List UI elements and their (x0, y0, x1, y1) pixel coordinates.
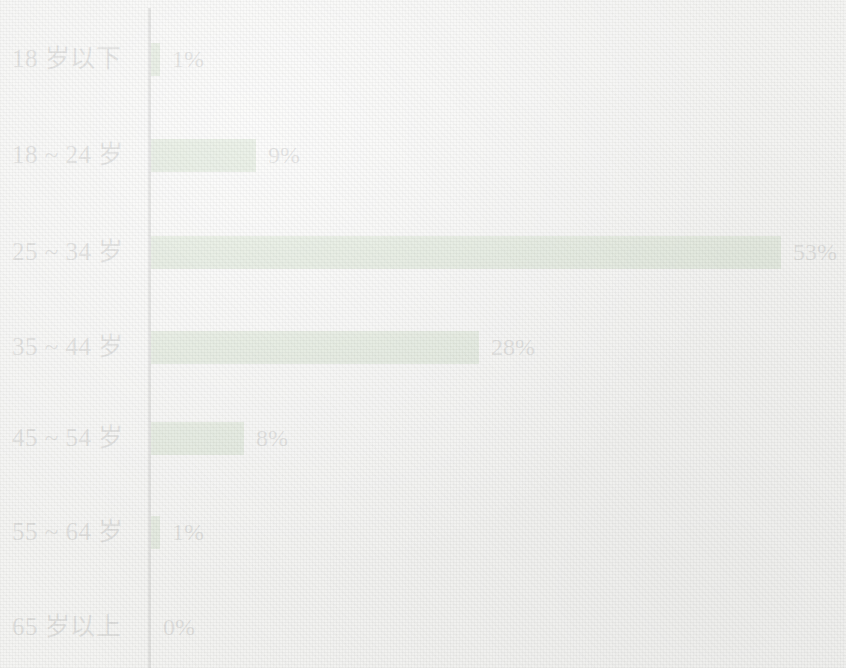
category-label: 18 岁以下 (0, 42, 136, 76)
bar (151, 422, 244, 455)
bar-group: 9% (151, 138, 300, 172)
plot-area: 18 岁以下 1% 18 ~ 24 岁 9% 25 ~ 34 岁 53% 35 … (0, 0, 846, 668)
category-label: 55 ~ 64 岁 (0, 515, 136, 549)
bar-value-label: 28% (491, 330, 535, 364)
category-label: 25 ~ 34 岁 (0, 235, 136, 269)
bar-group: 0% (151, 610, 195, 644)
category-label: 35 ~ 44 岁 (0, 330, 136, 364)
bar (151, 331, 479, 364)
bar-value-label: 0% (163, 610, 195, 644)
age-distribution-bar-chart: 18 岁以下 1% 18 ~ 24 岁 9% 25 ~ 34 岁 53% 35 … (0, 0, 846, 668)
bar-value-label: 1% (172, 515, 204, 549)
chart-row: 35 ~ 44 岁 28% (0, 330, 846, 364)
bar-value-label: 53% (793, 235, 837, 269)
chart-row: 25 ~ 34 岁 53% (0, 235, 846, 269)
bar (151, 139, 256, 172)
category-label: 45 ~ 54 岁 (0, 421, 136, 455)
bar-group: 28% (151, 330, 535, 364)
bar-group: 1% (151, 42, 204, 76)
chart-row: 18 岁以下 1% (0, 42, 846, 76)
bar-value-label: 8% (256, 421, 288, 455)
chart-row: 45 ~ 54 岁 8% (0, 421, 846, 455)
category-label: 18 ~ 24 岁 (0, 138, 136, 172)
bar (151, 236, 781, 269)
chart-row: 55 ~ 64 岁 1% (0, 515, 846, 549)
bar-group: 53% (151, 235, 837, 269)
bar-value-label: 9% (268, 138, 300, 172)
bar (151, 43, 160, 76)
bar-value-label: 1% (172, 42, 204, 76)
bar-group: 8% (151, 421, 288, 455)
bar (151, 516, 160, 549)
chart-row: 65 岁以上 0% (0, 610, 846, 644)
bar-group: 1% (151, 515, 204, 549)
category-label: 65 岁以上 (0, 610, 136, 644)
chart-row: 18 ~ 24 岁 9% (0, 138, 846, 172)
